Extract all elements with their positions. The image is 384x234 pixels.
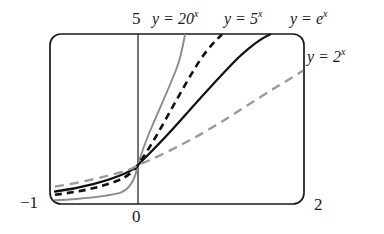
curve-label-y-e-pow-x: y = ex: [290, 10, 327, 27]
curve-label-y-20-pow-x: y = 20x: [152, 10, 198, 27]
curve-label-y-5-exponent: x: [258, 8, 262, 19]
x-axis-tick-minus-1: −1: [20, 194, 38, 211]
curve-label-y-2-exponent: x: [341, 46, 345, 57]
curve-label-y-5-pow-x: y = 5x: [224, 10, 262, 27]
curve-label-y-e-lhs: y = e: [290, 10, 323, 27]
exponential-functions-chart: 5 −1 0 2 y = 20x y = 5x y = ex y = 2x: [0, 0, 384, 234]
curve-label-y-e-exponent: x: [323, 8, 327, 19]
curve-label-y-20-lhs: y = 20: [152, 10, 194, 27]
x-axis-tick-0: 0: [132, 208, 141, 225]
curve-label-y-2-pow-x: y = 2x: [307, 48, 345, 65]
chart-plot-area: [0, 0, 384, 234]
curve-label-y-20-exponent: x: [194, 8, 198, 19]
y-axis-tick-5: 5: [132, 10, 141, 27]
curve-label-y-5-lhs: y = 5: [224, 10, 258, 27]
x-axis-tick-2: 2: [314, 196, 323, 213]
curve-label-y-2-lhs: y = 2: [307, 48, 341, 65]
plot-frame: [50, 34, 304, 204]
